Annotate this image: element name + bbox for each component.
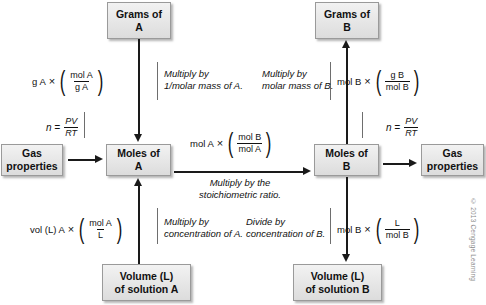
fraction-denominator: mol A: [237, 143, 262, 155]
fraction-numerator: g B: [389, 70, 405, 81]
arrow-moles-a-to-moles-b-line: [174, 171, 304, 173]
multiply-sign: ×: [68, 223, 74, 235]
fraction: PV RT: [62, 116, 80, 138]
fraction-group: ( L mol B ): [374, 218, 421, 240]
fraction-numerator: PV: [64, 116, 78, 127]
fraction-denominator: mol B: [385, 81, 410, 93]
formula-lhs: n =: [46, 122, 60, 133]
node-moles-of-b: Moles of B: [314, 144, 379, 176]
node-gas-properties-left: Gas properties: [1, 144, 63, 176]
expression-volume-a-to-moles-a: vol (L) A × ( mol A L ): [30, 218, 124, 240]
fraction-group: ( g B mol B ): [374, 70, 421, 92]
fraction-denominator: RT: [404, 127, 418, 139]
fraction: L mol B: [383, 218, 412, 240]
arrow-volume-a-to-moles-a-line: [138, 186, 140, 264]
arrow-moles-b-to-gas-right-head: [409, 159, 417, 167]
divider-top-left: [157, 62, 158, 100]
stoichiometry-flowchart: Grams of A Grams of B Gas properties Mol…: [0, 0, 486, 305]
fraction-denominator: g A: [74, 81, 89, 93]
fraction-denominator: L: [97, 229, 104, 241]
arrow-moles-b-to-grams-b-line: [346, 48, 348, 144]
node-grams-of-b: Grams of B: [315, 2, 379, 39]
arrow-grams-a-to-moles-a-head: [134, 134, 142, 142]
copyright-notice: © 2013 Cengage Learning: [470, 198, 477, 281]
node-volume-of-solution-b: Volume (L) of solution B: [293, 264, 382, 301]
fraction-denominator: RT: [64, 127, 78, 139]
fraction: g B mol B: [383, 70, 412, 92]
label-multiply-inverse-molar-mass-a: Multiply by 1/molar mass of A.: [164, 68, 243, 92]
expression-operand: mol B: [337, 76, 361, 87]
arrow-volume-a-to-moles-a-head: [134, 178, 142, 186]
expression-operand: mol A: [190, 138, 214, 149]
expression-moles-a-to-moles-b: mol A × ( mol B mol A ): [190, 132, 273, 154]
formula-ideal-gas-right: n = PV RT: [386, 116, 420, 138]
node-grams-of-a: Grams of A: [107, 2, 171, 39]
fraction-group: ( mol A g A ): [58, 70, 105, 92]
fraction-numerator: L: [394, 218, 401, 229]
arrow-moles-a-to-moles-b-head: [303, 167, 311, 175]
formula-ideal-gas-left: n = PV RT: [46, 116, 80, 138]
multiply-sign: ×: [364, 75, 370, 87]
arrow-gas-left-to-moles-a-head: [95, 155, 103, 163]
label-stoichiometric-ratio: Multiply by the stoichiometric ratio.: [180, 177, 300, 201]
expression-moles-b-to-grams-b: mol B × ( g B mol B ): [337, 70, 421, 92]
divider-bottom-left: [157, 208, 158, 244]
node-volume-of-solution-a: Volume (L) of solution A: [102, 264, 191, 301]
node-gas-properties-right: Gas properties: [421, 144, 484, 176]
arrow-grams-a-to-moles-a-line: [138, 39, 140, 135]
multiply-sign: ×: [217, 137, 223, 149]
fraction: mol A L: [86, 218, 115, 240]
fraction-denominator: mol B: [385, 229, 410, 241]
arrow-moles-b-to-volume-b-head: [342, 254, 350, 262]
divider-bottom-right: [330, 208, 331, 244]
label-divide-concentration-b: Divide by concentration of B.: [246, 216, 325, 240]
label-multiply-molar-mass-b: Multiply by molar mass of B.: [262, 68, 333, 92]
arrow-gas-left-to-moles-a-line: [68, 159, 96, 161]
multiply-sign: ×: [49, 75, 55, 87]
fraction: PV RT: [402, 116, 420, 138]
divider-ideal-gas-left: [84, 112, 85, 138]
fraction: mol B mol A: [235, 132, 264, 154]
expression-operand: vol (L) A: [30, 224, 65, 235]
fraction-group: ( mol A L ): [77, 218, 124, 240]
arrow-moles-b-to-gas-right-line: [383, 163, 410, 165]
label-multiply-concentration-a: Multiply by concentration of A.: [164, 216, 243, 240]
arrow-moles-b-to-volume-b-line: [346, 177, 348, 255]
node-moles-of-a: Moles of A: [106, 144, 171, 176]
expression-operand: mol B: [337, 224, 361, 235]
fraction: mol A g A: [67, 70, 96, 92]
multiply-sign: ×: [364, 223, 370, 235]
expression-moles-b-to-volume-b: mol B × ( L mol B ): [337, 218, 421, 240]
expression-operand: g A: [32, 76, 46, 87]
formula-lhs: n =: [386, 122, 400, 133]
divider-ideal-gas-right: [362, 112, 363, 138]
fraction-numerator: PV: [404, 116, 418, 127]
fraction-numerator: mol A: [69, 70, 94, 81]
arrow-moles-b-to-grams-b-head: [342, 40, 350, 48]
fraction-numerator: mol B: [237, 132, 262, 143]
expression-grams-a-to-moles-a: g A × ( mol A g A ): [32, 70, 105, 92]
fraction-group: ( mol B mol A ): [226, 132, 273, 154]
fraction-numerator: mol A: [88, 218, 113, 229]
